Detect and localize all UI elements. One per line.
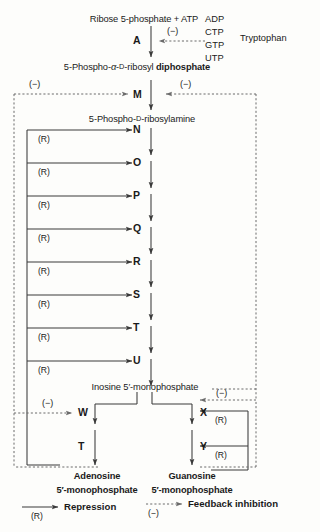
product-gmp-line2: 5′-monophosphate [151, 486, 232, 495]
enzyme-m: M [133, 89, 142, 100]
repression-label-u: (R) [38, 366, 50, 375]
repression-label-r: (R) [38, 267, 50, 276]
repression-label-p: (R) [38, 201, 50, 210]
repression-label-s: (R) [38, 300, 50, 309]
minus-w: (−) [42, 399, 53, 408]
repression-label-q: (R) [38, 234, 50, 243]
enzyme-q: Q [133, 223, 141, 234]
enzyme-a: A [133, 35, 141, 46]
legend-repression-mark: (R) [31, 512, 43, 521]
repression-label-o: (R) [38, 168, 50, 177]
minus-left-m: (−) [29, 80, 40, 89]
repression-label-n: (R) [38, 135, 50, 144]
inhibitor-ctp: CTP [205, 28, 224, 37]
enzyme-x: X [200, 407, 207, 418]
legend-repression-text: Repression [64, 502, 116, 512]
legend-feedback-text: Feedback inhibition [188, 499, 278, 509]
gmp-repression-label-x: (R) [215, 416, 227, 425]
gmp-repression-label-y: (R) [215, 451, 227, 460]
inhibitor-adp: ADP [205, 15, 224, 24]
enzyme-n: N [133, 124, 141, 135]
product-gmp-line1: Guanosine [168, 472, 215, 481]
inhibitor-tryptophan: Tryptophan [240, 34, 287, 43]
minus-x: (−) [216, 389, 227, 398]
enzyme-t2: T [78, 441, 84, 452]
enzyme-r: R [133, 256, 141, 267]
substrate-pra: 5-Phospho-D-ribosylamine [89, 115, 195, 125]
enzyme-o: O [133, 157, 141, 168]
substrate-prpp: 5-Phospho-α-D-ribosyl diphosphate [64, 63, 210, 73]
minus-top-a: (−) [167, 27, 178, 36]
enzyme-y: Y [200, 441, 207, 452]
enzyme-p: P [133, 190, 140, 201]
product-amp-line2: 5′-monophosphate [56, 486, 137, 495]
substrate-ribose-5-phosphate: Ribose 5-phosphate + ATP [90, 15, 198, 24]
enzyme-s: S [133, 289, 140, 300]
repression-label-t: (R) [38, 333, 50, 342]
enzyme-t: T [133, 322, 139, 333]
inhibitor-gtp: GTP [205, 41, 224, 50]
product-amp-line1: Adenosine [74, 472, 121, 481]
enzyme-u: U [133, 355, 141, 366]
substrate-imp: Inosine 5′-monophosphate [92, 383, 199, 392]
legend-feedback-mark: (−) [148, 509, 159, 518]
enzyme-w: W [78, 407, 88, 418]
minus-right-m: (−) [180, 80, 191, 89]
